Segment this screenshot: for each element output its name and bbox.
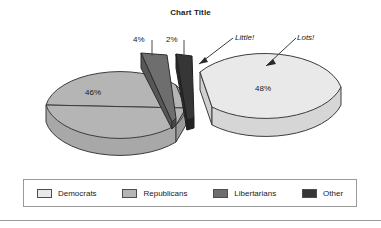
legend-swatch-other bbox=[302, 189, 317, 198]
annotation-little: Little! bbox=[235, 33, 254, 42]
data-label-democrats: 48% bbox=[255, 84, 271, 93]
legend-swatch-libertarians bbox=[213, 189, 228, 198]
pie-slice-democrats[interactable] bbox=[200, 54, 341, 137]
legend-label-other: Other bbox=[323, 189, 343, 198]
data-label-other: 2% bbox=[166, 35, 178, 44]
bottom-divider bbox=[0, 220, 381, 221]
legend-swatch-democrats bbox=[37, 189, 52, 198]
chart-page: Chart Title bbox=[0, 0, 381, 228]
legend-label-republicans: Republicans bbox=[143, 189, 187, 198]
legend-item-libertarians[interactable]: Libertarians bbox=[213, 189, 276, 198]
data-label-republicans: 46% bbox=[85, 88, 101, 97]
legend-item-other[interactable]: Other bbox=[302, 189, 343, 198]
data-label-libertarians: 4% bbox=[133, 35, 145, 44]
page-title: Chart Title bbox=[0, 8, 381, 17]
legend-label-democrats: Democrats bbox=[58, 189, 97, 198]
legend-swatch-republicans bbox=[122, 189, 137, 198]
legend-label-libertarians: Libertarians bbox=[234, 189, 276, 198]
chart-legend: Democrats Republicans Libertarians Other bbox=[23, 179, 357, 207]
legend-item-democrats[interactable]: Democrats bbox=[37, 189, 97, 198]
legend-item-republicans[interactable]: Republicans bbox=[122, 189, 187, 198]
annotation-lots: Lots! bbox=[297, 33, 314, 42]
pie-chart-plot bbox=[0, 18, 381, 170]
